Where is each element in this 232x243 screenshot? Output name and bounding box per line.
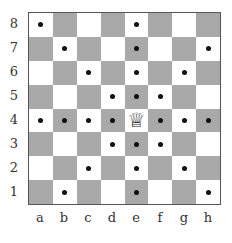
rank-label-7: 7 (8, 40, 20, 55)
square-g2 (172, 156, 196, 180)
square-c8 (77, 13, 101, 37)
move-dot-icon (86, 166, 91, 171)
square-f8 (148, 13, 172, 37)
square-e2 (125, 156, 149, 180)
square-e8 (125, 13, 149, 37)
file-label-g: g (172, 210, 196, 225)
move-dot-icon (206, 46, 211, 51)
square-d3 (101, 132, 125, 156)
square-b4 (53, 109, 77, 133)
square-a8 (29, 13, 53, 37)
square-f6 (148, 61, 172, 85)
file-label-a: a (28, 210, 52, 225)
square-a4 (29, 109, 53, 133)
move-dot-icon (62, 118, 67, 123)
square-g1 (172, 180, 196, 204)
square-b6 (53, 61, 77, 85)
square-d8 (101, 13, 125, 37)
square-h5 (196, 85, 220, 109)
square-c5 (77, 85, 101, 109)
square-h8 (196, 13, 220, 37)
square-h7 (196, 37, 220, 61)
square-f3 (148, 132, 172, 156)
square-f4 (148, 109, 172, 133)
rank-label-4: 4 (8, 112, 20, 127)
square-d5 (101, 85, 125, 109)
rank-label-3: 3 (8, 136, 20, 151)
move-dot-icon (134, 94, 139, 99)
square-g8 (172, 13, 196, 37)
move-dot-icon (38, 22, 43, 27)
square-f5 (148, 85, 172, 109)
move-dot-icon (86, 70, 91, 75)
square-c4 (77, 109, 101, 133)
square-c2 (77, 156, 101, 180)
move-dot-icon (38, 118, 43, 123)
file-label-e: e (124, 210, 148, 225)
move-dot-icon (158, 118, 163, 123)
move-dot-icon (206, 190, 211, 195)
move-dot-icon (86, 118, 91, 123)
square-b2 (53, 156, 77, 180)
square-d4 (101, 109, 125, 133)
move-dot-icon (182, 166, 187, 171)
rank-label-5: 5 (8, 88, 20, 103)
square-g7 (172, 37, 196, 61)
square-f7 (148, 37, 172, 61)
square-a5 (29, 85, 53, 109)
move-dot-icon (158, 142, 163, 147)
square-g6 (172, 61, 196, 85)
move-dot-icon (134, 190, 139, 195)
square-d6 (101, 61, 125, 85)
rank-label-8: 8 (8, 16, 20, 31)
square-c3 (77, 132, 101, 156)
square-d2 (101, 156, 125, 180)
move-dot-icon (158, 94, 163, 99)
square-a2 (29, 156, 53, 180)
square-b1 (53, 180, 77, 204)
move-dot-icon (110, 118, 115, 123)
file-label-c: c (76, 210, 100, 225)
move-dot-icon (62, 190, 67, 195)
square-c6 (77, 61, 101, 85)
square-a3 (29, 132, 53, 156)
square-f1 (148, 180, 172, 204)
rank-label-2: 2 (8, 160, 20, 175)
square-h1 (196, 180, 220, 204)
square-h6 (196, 61, 220, 85)
square-e5 (125, 85, 149, 109)
square-h4 (196, 109, 220, 133)
square-a1 (29, 180, 53, 204)
chess-board: ♕ (28, 12, 221, 205)
square-e7 (125, 37, 149, 61)
square-g5 (172, 85, 196, 109)
move-dot-icon (110, 142, 115, 147)
move-dot-icon (110, 94, 115, 99)
move-dot-icon (134, 22, 139, 27)
file-label-b: b (52, 210, 76, 225)
move-dot-icon (206, 118, 211, 123)
square-d7 (101, 37, 125, 61)
square-e4: ♕ (125, 109, 149, 133)
move-dot-icon (134, 46, 139, 51)
move-dot-icon (134, 166, 139, 171)
rank-label-6: 6 (8, 64, 20, 79)
white-queen-icon: ♕ (125, 109, 149, 133)
rank-label-1: 1 (8, 184, 20, 199)
move-dot-icon (134, 70, 139, 75)
file-label-h: h (196, 210, 220, 225)
square-g4 (172, 109, 196, 133)
square-b5 (53, 85, 77, 109)
move-dot-icon (182, 70, 187, 75)
file-label-f: f (148, 210, 172, 225)
square-e1 (125, 180, 149, 204)
move-dot-icon (182, 118, 187, 123)
move-dot-icon (134, 142, 139, 147)
square-b7 (53, 37, 77, 61)
move-dot-icon (62, 46, 67, 51)
square-c1 (77, 180, 101, 204)
square-h3 (196, 132, 220, 156)
square-a7 (29, 37, 53, 61)
square-d1 (101, 180, 125, 204)
square-e3 (125, 132, 149, 156)
